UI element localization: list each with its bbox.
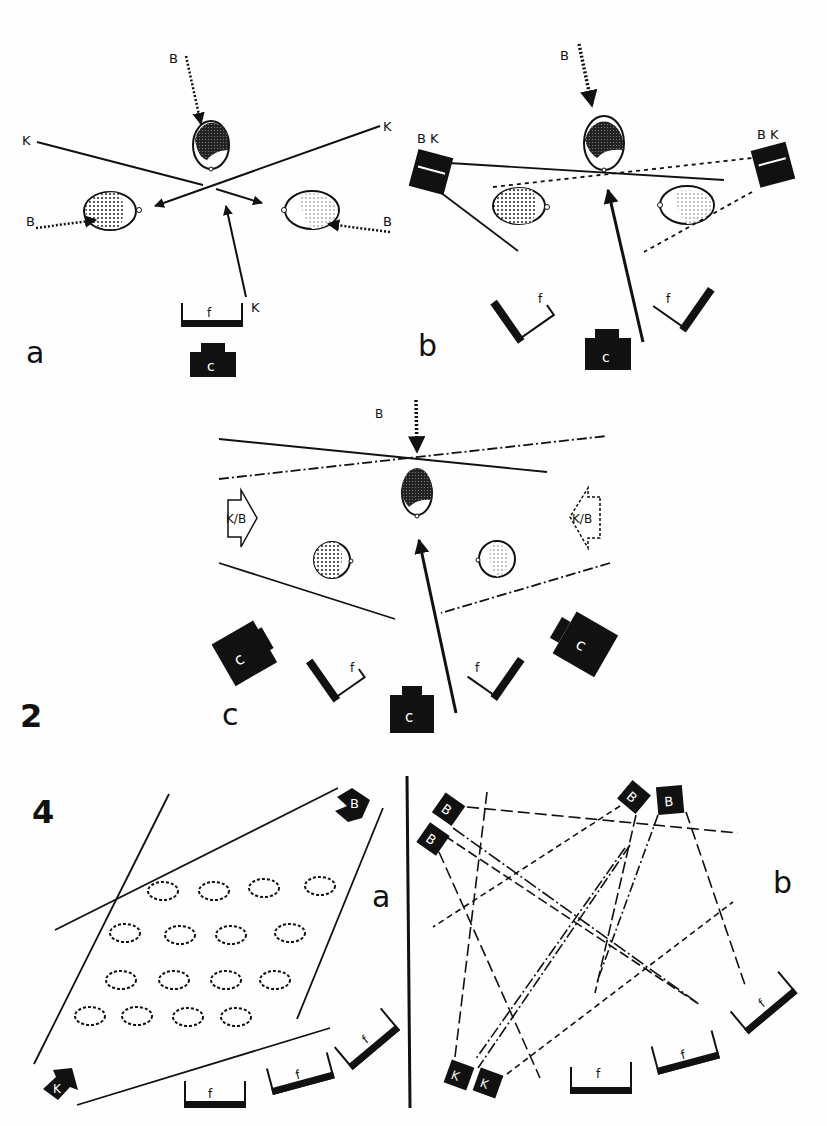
figure-2b: B K B K B f f c b (409, 44, 796, 370)
keyback-lamp-left-icon: K/B (226, 490, 257, 547)
svg-text:f: f (596, 1067, 601, 1081)
svg-text:K/B: K/B (226, 512, 246, 526)
figure-2a: B K K B B K f c a (22, 51, 392, 377)
svg-text:f: f (359, 1032, 372, 1046)
panel-label-4b: b (773, 865, 792, 900)
head-top-icon (402, 468, 432, 518)
fill-light-left-icon (306, 640, 366, 702)
fill-light-1-icon: f (571, 1062, 632, 1094)
label-backkey-right: B K (757, 127, 779, 142)
back-lamp-icon: B (335, 788, 370, 822)
fill-light-right-icon (651, 267, 714, 332)
label-back-top: B (169, 51, 178, 66)
panel-label-2a: a (26, 335, 44, 370)
key-lamp-icon: K (43, 1068, 78, 1100)
panel-label-4a: a (372, 879, 390, 914)
svg-text:c: c (405, 708, 413, 726)
label-back-top: B (560, 48, 569, 63)
head-top-icon (584, 116, 624, 172)
label-key-front: K (251, 300, 260, 315)
keyback-lamp-right-icon: K/B (570, 488, 600, 548)
divider (407, 776, 410, 1108)
camera-icon: c (390, 686, 434, 733)
svg-text:f: f (475, 661, 480, 675)
back-lamp-4-icon: B (656, 785, 684, 815)
svg-text:K: K (53, 1082, 62, 1096)
back-lamp-1-icon: B (432, 792, 465, 825)
head-left-icon (84, 192, 142, 230)
panel-label-2b: b (418, 328, 437, 363)
audience-group (75, 877, 335, 1026)
key-lamp-2-icon: K (473, 1068, 504, 1099)
head-right-icon (658, 186, 715, 224)
svg-text:f: f (666, 292, 671, 306)
figure-2c: B K/B K/B c (20, 380, 618, 735)
camera-icon: c (190, 343, 236, 377)
head-left-icon (493, 188, 550, 224)
camera-icon: c (585, 329, 631, 370)
svg-text:f: f (538, 292, 543, 306)
label-back-left: B (26, 214, 35, 229)
backkey-lamp-left-icon (409, 149, 454, 195)
back-lamp-3-icon: B (617, 780, 651, 814)
fill-light-3-icon: f (334, 1008, 400, 1070)
svg-text:K/B: K/B (572, 512, 592, 526)
svg-text:f: f (350, 661, 355, 675)
figure-number-4: 4 (32, 793, 54, 831)
figure-number-2: 2 (20, 697, 42, 735)
lighting-diagram-page: B K K B B K f c a (0, 0, 827, 1126)
svg-text:f: f (679, 1047, 687, 1062)
label-key-left: K (22, 133, 31, 148)
back-lamp-2-icon: B (416, 822, 449, 855)
label-key-right: K (383, 119, 392, 134)
backkey-lamp-right-icon (751, 142, 796, 188)
fill-light-2-icon: f (266, 1052, 335, 1095)
camera-right-icon: c (544, 607, 618, 678)
label-backkey-left: B K (417, 131, 439, 146)
head-left-icon (314, 542, 353, 578)
figure-4a: 4 B K f f (32, 788, 400, 1108)
svg-text:f: f (208, 1087, 213, 1101)
panel-label-2c: c (222, 697, 239, 732)
fill-light-1-icon: f (184, 1081, 246, 1108)
key-lamp-1-icon: K (444, 1060, 475, 1091)
label-back-right: B (383, 214, 392, 229)
svg-text:f: f (207, 306, 212, 320)
fill-light-left-icon (490, 278, 555, 344)
svg-text:c: c (207, 358, 215, 374)
svg-text:f: f (756, 996, 769, 1010)
head-right-icon (476, 541, 515, 577)
camera-left-icon: c (212, 619, 281, 687)
head-top-icon (193, 121, 229, 171)
svg-text:B: B (664, 794, 674, 810)
svg-text:f: f (294, 1067, 302, 1082)
label-back-top: B (375, 407, 383, 421)
fill-light-3-icon: f (730, 971, 798, 1034)
fill-light-icon: f (181, 303, 243, 327)
svg-text:B: B (350, 796, 359, 811)
fill-light-2-icon: f (651, 1030, 720, 1075)
figure-4b: B B B B K K (416, 780, 797, 1098)
svg-text:c: c (602, 349, 610, 365)
light-beams (433, 792, 745, 1078)
